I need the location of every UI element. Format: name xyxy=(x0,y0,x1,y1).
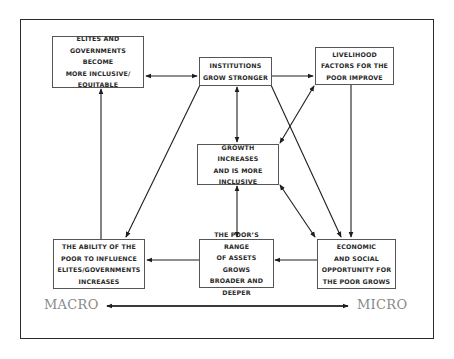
node-livelihood-factors-improve: LIVELIHOOD FACTORS FOR THE POOR IMPROVE xyxy=(315,47,394,85)
macro-label: MACRO xyxy=(44,297,99,312)
edge-growth-opportunity xyxy=(280,185,315,237)
edge-institutions-ability xyxy=(126,85,200,237)
node-institutions-grow-stronger: INSTITUTIONS GROW STRONGER xyxy=(199,57,272,86)
edge-institutions-opportunity xyxy=(271,85,341,237)
node-growth-increases: GROWTH INCREASES AND IS MORE INCLUSIVE xyxy=(197,144,279,185)
node-range-of-assets: THE POOR’S RANGE OF ASSETS GROWS BROADER… xyxy=(199,239,274,288)
node-economic-social-opportunity: ECONOMIC AND SOCIAL OPPORTUNITY FOR THE … xyxy=(317,239,396,289)
node-elites-more-inclusive: ELITES AND GOVERNMENTS BECOME MORE INCLU… xyxy=(52,36,144,88)
node-ability-to-influence: THE ABILITY OF THE POOR TO INFLUENCE ELI… xyxy=(53,239,145,289)
figure-caption-cropped xyxy=(20,346,200,356)
micro-label: MICRO xyxy=(357,297,407,312)
